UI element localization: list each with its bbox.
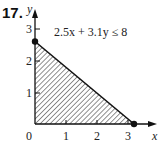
y-axis-arrow-icon bbox=[32, 9, 38, 18]
y-tick-1: 1 bbox=[26, 86, 32, 100]
x-tick-0: 0 bbox=[26, 129, 32, 143]
x-intercept-point bbox=[131, 121, 137, 127]
feasible-region-graph: y x 3 2 1 0 1 2 3 2.5x + 3.1y ≤ 8 bbox=[0, 0, 161, 159]
y-tick-3: 3 bbox=[26, 22, 32, 36]
x-tick-3: 3 bbox=[125, 129, 131, 143]
x-tick-2: 2 bbox=[94, 129, 100, 143]
x-axis-label: x bbox=[151, 129, 158, 143]
x-tick-1: 1 bbox=[63, 129, 69, 143]
y-axis-label: y bbox=[26, 2, 33, 16]
x-axis-arrow-icon bbox=[148, 121, 157, 127]
y-tick-2: 2 bbox=[26, 54, 32, 68]
inequality-label: 2.5x + 3.1y ≤ 8 bbox=[54, 25, 127, 39]
y-intercept-point bbox=[32, 38, 38, 44]
